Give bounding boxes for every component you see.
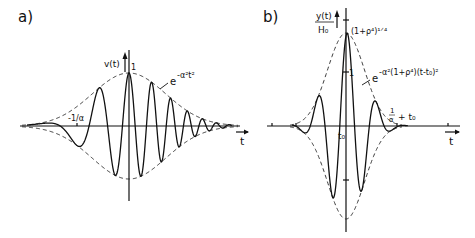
panel-b-peak-label: (1+ρ⁴)¹ᐟ⁴ [351,27,387,36]
panel-a-envelope-base: e [170,76,176,87]
panel-b-label: b) [263,8,278,26]
panel-b-t-arrowhead-icon [455,130,460,135]
panel-b-tick-suffix: + t₀ [398,112,416,122]
panel-a-envelope-pointer [160,83,168,89]
panel-a: a) t v(t) 1 e -α²t² -1/α [18,8,249,201]
diagram-canvas: a) t v(t) 1 e -α²t² -1/α b) t [0,0,475,238]
panel-b-y-label-den: H₀ [318,25,329,35]
panel-a-y-label: v(t) [104,59,120,69]
panel-b-tick-num: 1 [390,107,394,115]
panel-b-y-label-num: y(t) [316,11,332,21]
panel-a-label: a) [18,8,33,26]
panel-b-envelope-exp: -α²(1+ρ⁴)(t-t₀)² [379,68,439,77]
panel-a-envelope-exp: -α²t² [177,71,195,80]
panel-a-t-arrowhead-icon [244,130,249,135]
panel-a-y-arrowhead-icon [123,52,128,59]
panel-a-x-label: t [240,135,245,148]
panel-b-y-arrowhead-icon [335,10,340,17]
panel-b: b) t y(t) H₀ (1+ρ⁴)¹ᐟ⁴ 1 e -α²(1+ρ⁴)(t-t… [263,8,460,232]
panel-b-x-label: t [449,135,454,148]
panel-b-envelope-base: e [372,73,378,84]
panel-a-tick-label: -1/α [68,114,84,123]
panel-a-peak-label: 1 [131,63,136,72]
